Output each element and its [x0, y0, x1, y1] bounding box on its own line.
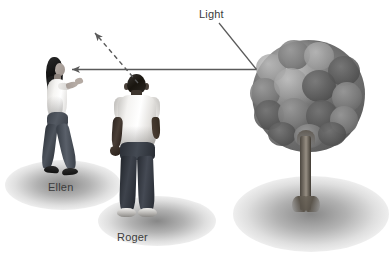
tree-root: [306, 196, 320, 212]
leaf-clump: [268, 122, 296, 146]
light-reflection-diagram: Light Ellen Roger: [0, 0, 391, 260]
tree-root: [292, 196, 306, 212]
leaf-clump: [318, 122, 346, 146]
ellen-hand: [74, 77, 84, 85]
roger-label: Roger: [117, 231, 148, 243]
ellen-leg: [55, 123, 78, 171]
roger-figure: [105, 74, 169, 220]
roger-sneaker: [138, 208, 157, 217]
roger-leg: [119, 156, 137, 213]
leaf-clump: [302, 70, 336, 102]
ellen-label: Ellen: [48, 181, 73, 193]
roger-sneaker: [117, 208, 136, 217]
ellen-figure: [34, 56, 94, 180]
ellen-shoe: [44, 165, 59, 173]
tree-figure: [248, 38, 368, 218]
ellen-shoe: [62, 167, 79, 175]
roger-leg: [137, 156, 155, 213]
roger-arm: [151, 117, 160, 139]
light-label: Light: [199, 8, 224, 20]
